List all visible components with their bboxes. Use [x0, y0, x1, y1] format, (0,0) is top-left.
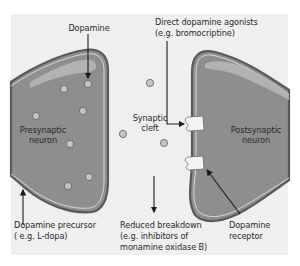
dopamine-vesicle: [84, 80, 91, 87]
dopamine-receptor-upper: [185, 116, 204, 131]
dopamine-molecule: [146, 79, 153, 86]
breakdown-label-line2: (e.g. inhibitors of: [120, 231, 188, 241]
presynaptic-label-line2: neuron: [16, 135, 70, 145]
precursor-label-line2: ( e.g. L-dopa): [14, 231, 67, 241]
postsynaptic-label-line1: Postsynaptic: [228, 125, 284, 135]
synaptic-cleft-label-line1: Synaptic: [128, 113, 172, 123]
dopamine-receptor-lower: [185, 156, 204, 170]
breakdown-label-line3: monamine oxidase B): [120, 242, 207, 252]
breakdown-label-line1: Reduced breakdown: [120, 220, 202, 230]
dopamine-molecule: [119, 130, 126, 137]
precursor-label-line1: Dopamine precursor: [14, 220, 96, 230]
receptor-label-line2: receptor: [229, 231, 263, 241]
dopamine-vesicle: [60, 85, 67, 92]
agonist-arrow: [167, 41, 184, 124]
dopamine-vesicle: [79, 107, 86, 114]
synaptic-cleft-label-line2: cleft: [128, 123, 172, 133]
dopamine-vesicle: [64, 182, 71, 189]
presynaptic-label-line1: Presynaptic: [16, 125, 70, 135]
dopamine-label: Dopamine: [68, 23, 110, 33]
agonists-label-line2: (e.g. bromocriptine): [155, 28, 235, 38]
postsynaptic-label-line2: neuron: [228, 135, 284, 145]
dopamine-vesicle: [32, 112, 39, 119]
agonists-label-line1: Direct dopamine agonists: [155, 17, 258, 27]
dopamine-vesicle: [85, 173, 92, 180]
dopamine-molecule: [160, 139, 167, 146]
receptor-label-line1: Dopamine: [229, 220, 270, 230]
